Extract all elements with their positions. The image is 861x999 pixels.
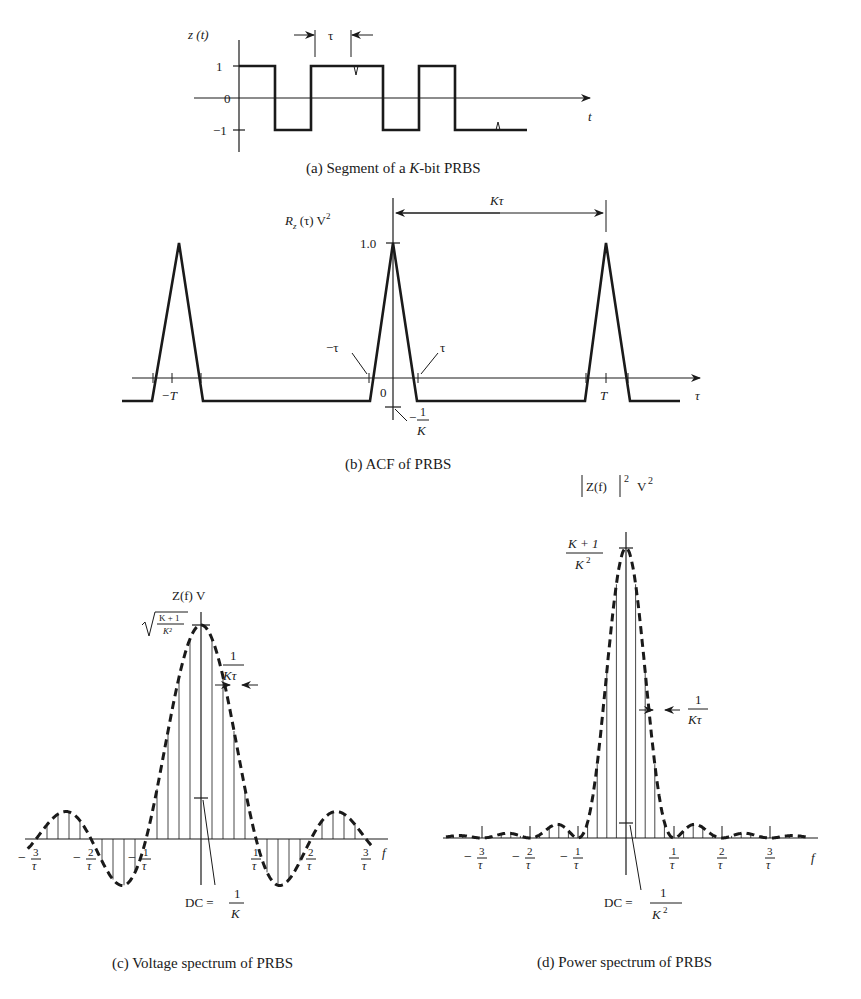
caption-a-prefix: (a) Segment of a [306,160,409,177]
panel-a-ytick-minus1: −1 [213,123,227,138]
tick-num: 2 [527,845,533,857]
panel-b-xlabel: τ [695,388,701,403]
panel-d-ylabel-unit: V [637,479,647,494]
tick-den: τ [142,859,147,873]
c-dc-leader [203,800,215,885]
x-tick-label: 3τ [765,826,775,872]
panel-b-peak-label: 1.0 [360,236,376,251]
d-peak-den-exp: 2 [586,555,591,565]
d-dc-den-exp: 2 [663,905,668,915]
ylabel-b-r: R [284,213,293,228]
panel-c-voltage-spectrum: 1 Kτ Z(f) V K + 1 K² DC = 1 K −3τ−2τ−1τ1… [18,588,388,972]
panel-b-acf: Kτ Rz (τ) V2 1.0 −τ τ −T T 0 − 1 K τ (b)… [122,193,701,473]
minus-T-label: −T [161,388,178,403]
panel-d-ylabel-unit-exp: 2 [648,475,653,486]
d-peak-num: K + 1 [567,536,598,551]
panel-a-glitch-mark [354,66,358,75]
c-dc-prefix: DC = [185,895,214,910]
panel-c-xlabel: f [382,845,388,860]
tick-den: τ [766,858,771,872]
c-peak-den: K² [162,626,172,636]
x-tick-label: 3τ [361,846,371,873]
d-dc-prefix: DC = [604,895,633,910]
tick-sign: − [464,849,472,864]
tick-sign: − [73,850,81,865]
tau-label: τ [328,28,333,43]
c-dc-num: 1 [234,886,241,901]
tick-num: 3 [363,846,369,858]
x-tick-label: 2τ [306,846,316,873]
panel-d-ylabel-exp: 2 [624,473,629,484]
x-tick-label: −3τ [464,826,487,872]
tick-den: τ [478,858,483,872]
ylabel-b-sup: 2 [326,211,331,221]
tick-num: 1 [575,845,581,857]
floor-minus-sign: − [409,410,416,425]
tick-num: 3 [767,845,773,857]
tick-num: 2 [719,845,725,857]
d-dc-den: K [651,907,662,922]
acf-triangle-train [122,243,680,401]
T-label: T [600,388,608,403]
tick-den: τ [362,859,367,873]
panel-a-caption: (a) Segment of a K-bit PRBS [306,160,481,177]
panel-d-ylabel: Z(f) [586,479,607,494]
floor-den: K [416,423,427,438]
c-dc-den: K [230,906,241,921]
tick-sign: − [18,850,26,865]
tick-num: 3 [479,845,485,857]
tick-num: 2 [308,846,314,858]
prbs-figure: τ z (t) 1 0 −1 t (a) Segment of a K-bit … [0,0,861,999]
x-tick-label: −3τ [18,846,41,873]
tick-den: τ [718,858,723,872]
d-spacing-den: Kτ [687,712,703,727]
tick-sign: − [560,849,568,864]
zero-label: 0 [380,385,387,400]
tick-sign: − [128,850,136,865]
caption-a-suffix: -bit PRBS [419,160,480,176]
d-spacing-num: 1 [695,692,702,707]
panel-b-caption: (b) ACF of PRBS [345,456,451,473]
panel-a-prbs-segment: τ z (t) 1 0 −1 t (a) Segment of a K-bit … [187,27,592,177]
panel-a-ytick-1: 1 [216,59,223,74]
tick-den: τ [307,859,312,873]
panel-b-ylabel: Rz (τ) V2 [284,211,331,231]
tick-num: 3 [33,846,39,858]
tick-num: 1 [671,845,677,857]
tick-den: τ [526,858,531,872]
tau-tick-label: τ [440,340,445,355]
panel-d-xlabel: f [811,850,817,865]
tau-leader [421,353,438,374]
x-tick-label: −2τ [73,846,96,873]
panel-c-x-tick-labels: −3τ−2τ−1τ1τ2τ3τ [18,846,371,873]
panel-c-ylabel: Z(f) V [172,588,206,603]
minus-tau-tick-label: −τ [326,340,339,355]
floor-leader [395,409,407,421]
d-peak-den: K [574,557,585,572]
ylabel-b-rest: (τ) V [296,213,326,228]
tick-den: τ [32,859,37,873]
tick-num: 1 [143,846,149,858]
x-tick-label: 2τ [717,826,727,872]
tick-num: 2 [88,846,94,858]
period-label: Kτ [489,193,505,208]
panel-a-ytick-0: 0 [224,91,231,106]
panel-a-ylabel: z (t) [187,27,209,42]
c-spacing-num: 1 [230,648,237,663]
tick-den: τ [87,859,92,873]
c-spacing-den: Kτ [222,668,238,683]
panel-d-caption: (d) Power spectrum of PRBS [537,954,712,971]
floor-num: 1 [420,405,426,419]
tick-den: τ [252,859,257,873]
d-dc-num: 1 [660,885,667,900]
c-peak-num: K + 1 [159,613,180,623]
panel-c-caption: (c) Voltage spectrum of PRBS [112,955,293,972]
tick-den: τ [670,858,675,872]
tick-num: 1 [253,846,259,858]
panel-a-xlabel: t [588,109,592,124]
minus-tau-leader [352,353,367,374]
panel-d-power-spectrum: Z(f) 2 V 2 K + 1 K 2 1 Kτ DC = 1 K 2 −3τ… [443,473,818,971]
tick-den: τ [574,858,579,872]
x-tick-label: 1τ [669,826,679,872]
tick-sign: − [512,849,520,864]
